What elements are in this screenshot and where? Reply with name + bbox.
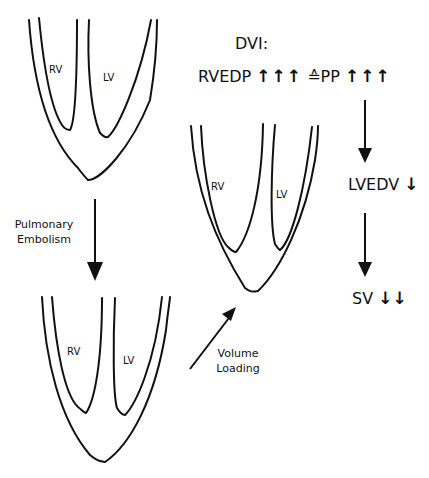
- cascade-arrow-1-head: [358, 148, 372, 163]
- volume-loading-line2: Loading: [213, 361, 263, 376]
- heart-bottom-lv-label: LV: [123, 356, 134, 366]
- pp-label: PP: [321, 67, 340, 86]
- sv-label: SV: [352, 289, 373, 308]
- rvedp-pp-row: RVEDP ↑↑↑ ≙PP ↑↑↑: [198, 68, 391, 85]
- rvedp-up-arrows: ↑↑↑: [256, 66, 302, 86]
- sv-row: SV ↓↓: [352, 290, 407, 307]
- heart-middle: [191, 124, 318, 292]
- heart-bottom-rv-label: RV: [67, 347, 80, 357]
- pp-up-arrows: ↑↑↑: [345, 66, 391, 86]
- pulmonary-embolism-label: Pulmonary Embolism: [14, 217, 74, 247]
- heart-bottom-outer-wall: [42, 297, 170, 462]
- heart-middle-lv-label: LV: [276, 190, 287, 200]
- pulmonary-embolism-arrowhead: [87, 262, 103, 281]
- volume-loading-arrowhead: [222, 307, 236, 321]
- lvedv-down-arrow: ↓: [404, 174, 418, 194]
- heart-bottom-lv-wall: [114, 297, 162, 415]
- lvedv-label: LVEDV: [348, 175, 399, 194]
- pulmonary-embolism-line2: Embolism: [14, 232, 74, 247]
- cascade-arrow-2-head: [358, 262, 372, 277]
- heart-top-lv-label: LV: [103, 73, 114, 83]
- rvedp-label: RVEDP: [198, 67, 251, 86]
- heart-top-outer-wall: [29, 20, 157, 180]
- heart-top-rv-label: RV: [49, 65, 62, 75]
- heart-top: [29, 18, 157, 180]
- sv-down-arrows: ↓↓: [378, 288, 407, 308]
- volume-loading-line1: Volume: [213, 346, 263, 361]
- pulmonary-embolism-line1: Pulmonary: [14, 217, 74, 232]
- heart-bottom: [42, 297, 170, 462]
- heart-middle-rv-label: RV: [211, 182, 224, 192]
- volume-loading-label: Volume Loading: [213, 346, 263, 376]
- corresponds-to-symbol: ≙: [307, 67, 320, 86]
- dvi-title: DVI:: [235, 36, 268, 52]
- heart-middle-lv-wall: [272, 125, 312, 250]
- lvedv-row: LVEDV ↓: [348, 176, 419, 193]
